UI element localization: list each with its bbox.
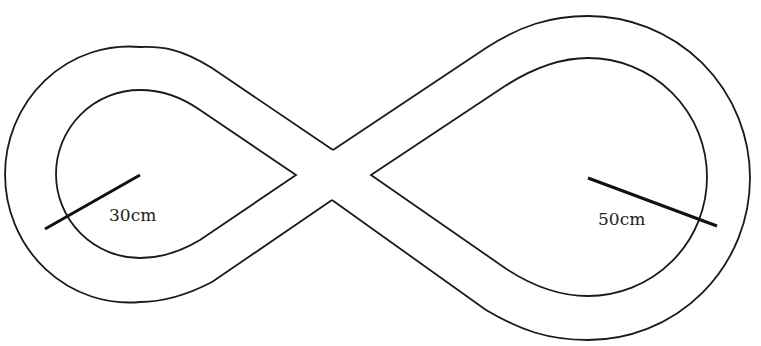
inner-boundary-left <box>56 90 296 258</box>
outer-boundary-left <box>5 47 333 303</box>
figure-eight-track-diagram: 30cm 50cm <box>0 0 761 346</box>
inner-boundary-right <box>371 58 707 296</box>
left-radius-label: 30cm <box>109 205 156 225</box>
right-radius-label: 50cm <box>598 209 645 229</box>
outer-boundary-right <box>332 16 750 340</box>
